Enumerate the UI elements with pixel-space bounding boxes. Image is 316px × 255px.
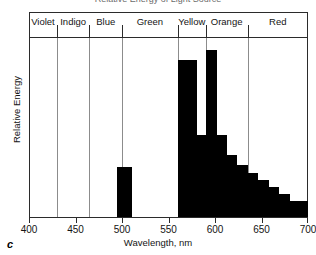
x-axis-tick-label: 500 — [102, 224, 142, 235]
band-rule-top — [29, 12, 308, 13]
spectrum-bar — [258, 180, 269, 217]
y-axis-line — [29, 38, 30, 218]
x-axis-tick-label: 450 — [56, 224, 96, 235]
spectrum-bar — [248, 173, 258, 218]
x-axis-tick — [76, 218, 77, 223]
band-label-violet: Violet — [29, 16, 57, 27]
spectrum-bar — [117, 167, 132, 217]
x-axis-tick-label: 650 — [242, 224, 282, 235]
band-divider-tick — [178, 25, 179, 37]
band-label-blue: Blue — [89, 16, 122, 27]
band-label-green: Green — [122, 16, 178, 27]
x-axis-tick — [169, 218, 170, 223]
band-label-red: Red — [248, 16, 308, 27]
panel-letter: c — [7, 238, 13, 250]
plot-area — [29, 38, 308, 218]
band-divider-tick — [89, 25, 90, 37]
band-label-indigo: Indigo — [57, 16, 90, 27]
band-divider-tick — [248, 25, 249, 37]
band-divider-tick — [57, 25, 58, 37]
spectrum-bar — [279, 194, 290, 217]
x-axis-tick-label: 600 — [195, 224, 235, 235]
spectrum-bar — [269, 187, 279, 217]
band-label-orange: Orange — [206, 16, 248, 27]
band-edge — [29, 12, 30, 38]
spectrum-bar — [227, 155, 237, 217]
x-axis-tick — [307, 218, 308, 223]
x-axis-tick-label: 550 — [149, 224, 189, 235]
band-divider-tick — [122, 25, 123, 37]
figure-title-cropped: Relative Energy of Light Source — [0, 0, 316, 7]
spectral-power-distribution-figure: Relative Energy of Light Source VioletIn… — [0, 0, 316, 255]
band-label-yellow: Yellow — [178, 16, 206, 27]
spectrum-bar — [197, 135, 205, 217]
plot-gridline — [89, 38, 90, 217]
spectrum-bar — [237, 165, 247, 217]
x-axis-tick-label: 400 — [9, 224, 49, 235]
spectrum-bar — [290, 201, 308, 217]
y-axis-title: Relative Energy — [11, 50, 22, 170]
plot-gridline — [57, 38, 58, 217]
x-axis-tick — [29, 218, 30, 223]
x-axis-tick-label: 700 — [288, 224, 316, 235]
spectrum-bar — [206, 50, 217, 217]
x-axis-tick — [122, 218, 123, 223]
band-divider-tick — [206, 25, 207, 37]
figure-title-text: Relative Energy of Light Source — [0, 0, 316, 4]
spectrum-bar — [178, 60, 198, 217]
plot-right-edge — [307, 38, 308, 218]
spectrum-bar — [217, 135, 227, 217]
spectrum-color-band: VioletIndigoBlueGreenYellowOrangeRed — [29, 12, 308, 38]
x-axis-title: Wavelength, nm — [0, 237, 316, 248]
x-axis-tick — [262, 218, 263, 223]
x-axis-tick — [215, 218, 216, 223]
band-edge — [307, 12, 308, 38]
